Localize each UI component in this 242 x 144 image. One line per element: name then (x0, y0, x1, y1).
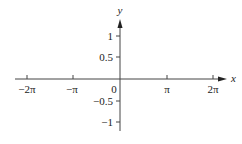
y-tick-label: −1 (101, 116, 113, 128)
x-axis-arrow-icon (218, 77, 227, 82)
x-tick-label: −2π (18, 83, 36, 95)
y-tick-label: 1 (108, 30, 114, 42)
y-tick-label: 0.5 (99, 51, 113, 63)
x-tick-label: π (164, 83, 170, 95)
x-tick-label: 2π (207, 83, 219, 95)
x-axis-label: x (230, 72, 236, 84)
y-axis-label: y (117, 4, 123, 16)
y-tick-label: −0.5 (93, 95, 113, 107)
y-axis-arrow-icon (118, 19, 123, 28)
origin-label: 0 (111, 83, 117, 95)
x-tick-label: −π (66, 83, 78, 95)
chart-canvas: −2π −π π 2π 0 1 0.5 −0.5 −1 x y (0, 0, 242, 144)
